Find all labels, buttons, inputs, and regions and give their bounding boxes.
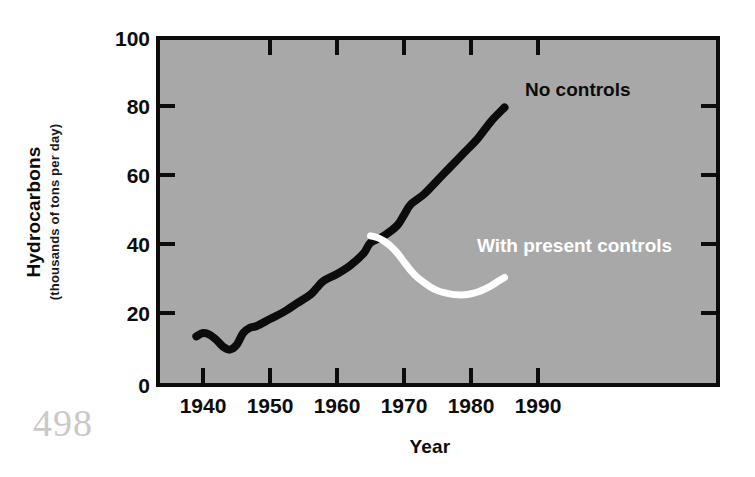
y-axis-subtitle: (thousands of tons per day) bbox=[47, 124, 62, 301]
hydrocarbons-line-chart: 100 80 60 40 20 0 1940 1950 1960 1970 19… bbox=[0, 0, 755, 477]
page-number: 498 bbox=[33, 404, 93, 442]
x-tick-label-1990: 1990 bbox=[515, 394, 562, 417]
x-axis-tick-labels: 1940 1950 1960 1970 1980 1990 bbox=[180, 394, 562, 417]
y-axis-title: Hydrocarbons bbox=[23, 146, 44, 277]
y-axis-tick-labels: 100 80 60 40 20 0 bbox=[115, 27, 150, 397]
series-label-no-controls: No controls bbox=[525, 79, 631, 100]
series-label-with-present-controls: With present controls bbox=[477, 235, 672, 256]
y-tick-label-100: 100 bbox=[115, 27, 150, 50]
x-tick-label-1970: 1970 bbox=[381, 394, 428, 417]
y-tick-label-60: 60 bbox=[127, 164, 150, 187]
x-tick-label-1960: 1960 bbox=[314, 394, 361, 417]
y-tick-label-20: 20 bbox=[127, 302, 150, 325]
figure-container: 100 80 60 40 20 0 1940 1950 1960 1970 19… bbox=[0, 0, 755, 477]
x-axis-title: Year bbox=[410, 436, 451, 457]
x-tick-label-1980: 1980 bbox=[448, 394, 495, 417]
y-tick-label-40: 40 bbox=[127, 233, 150, 256]
y-tick-label-80: 80 bbox=[127, 95, 150, 118]
x-tick-label-1940: 1940 bbox=[180, 394, 227, 417]
x-tick-label-1950: 1950 bbox=[247, 394, 294, 417]
y-tick-label-0: 0 bbox=[138, 374, 150, 397]
